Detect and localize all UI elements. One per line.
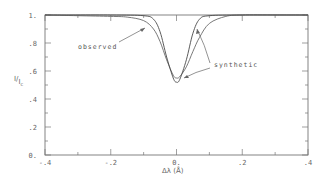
y-axis-title: I/Ic: [14, 75, 24, 87]
y-tick-label: .6: [29, 68, 37, 76]
arrow-head-observed: [140, 28, 145, 32]
x-tick-label: -.2: [104, 159, 117, 167]
x-tick-label: -.4: [39, 159, 52, 167]
ticks: 0..2.4.6.81.-.4-.20..2.4: [29, 12, 313, 168]
line-chart: 0..2.4.6.81.-.4-.20..2.4 observed synthe…: [0, 0, 326, 178]
x-tick-label: .2: [238, 159, 246, 167]
y-tick-label: 1.: [29, 12, 37, 20]
plot-frame: [45, 15, 308, 155]
annotation-synthetic: synthetic: [214, 61, 258, 69]
annotation-observed: observed: [78, 43, 117, 51]
axes: [45, 15, 308, 155]
x-tick-label: .4: [304, 159, 312, 167]
x-tick-label: 0.: [172, 159, 180, 167]
x-axis-title: Δλ (Å): [162, 166, 184, 175]
y-tick-label: .4: [29, 96, 37, 104]
y-tick-label: 0.: [29, 152, 37, 160]
arrow-synthetic-upper: [197, 29, 210, 63]
y-tick-label: .2: [29, 124, 37, 132]
y-tick-label: .8: [29, 40, 37, 48]
